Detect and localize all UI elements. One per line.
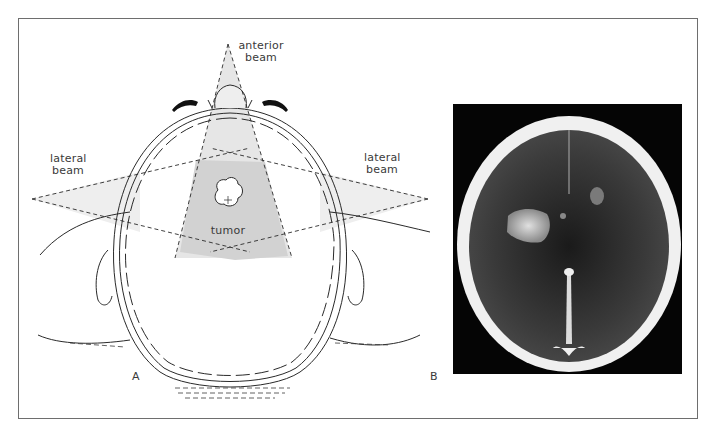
panel-a-letter: A (132, 370, 140, 383)
lateral-beam-right-label: lateral beam (364, 152, 400, 176)
tumor-label: tumor (208, 225, 248, 237)
falx-posterior (566, 274, 572, 344)
lateral-beam-left-label: lateral beam (50, 153, 86, 177)
beam-intersection-area (180, 160, 288, 260)
anterior-beam-label: anterior beam (236, 40, 286, 64)
panel-b-letter: B (430, 370, 438, 383)
lateral-beam-right-area (320, 172, 428, 232)
ct-scan-image (453, 104, 682, 374)
